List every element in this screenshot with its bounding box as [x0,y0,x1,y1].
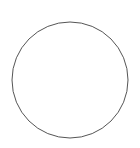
diagram-svg [0,0,140,148]
circle-shape [12,22,128,138]
diagram-canvas [0,0,140,148]
